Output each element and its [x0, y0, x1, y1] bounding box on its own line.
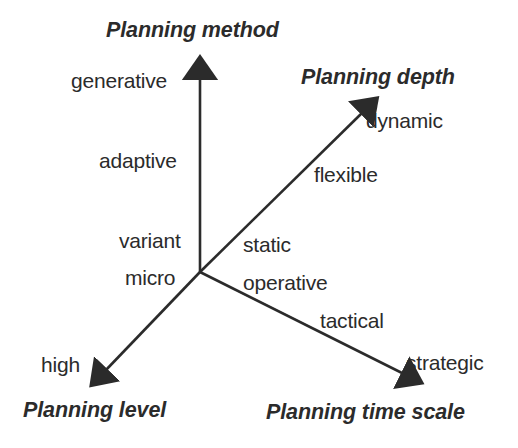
diagram-canvas: Planning method Planning depth Planning …	[0, 0, 518, 448]
scale-label-tactical: tactical	[320, 310, 384, 331]
scale-label-high: high	[41, 354, 80, 375]
scale-label-micro: micro	[125, 267, 175, 288]
scale-label-variant: variant	[119, 230, 181, 251]
scale-label-flexible: flexible	[314, 164, 378, 185]
scale-label-static: static	[243, 234, 291, 255]
scale-label-adaptive: adaptive	[99, 150, 177, 171]
axis-title-planning-level: Planning level	[23, 400, 166, 422]
axis-title-planning-depth: Planning depth	[301, 67, 455, 89]
axis-title-planning-time-scale: Planning time scale	[266, 402, 465, 424]
scale-label-operative: operative	[243, 272, 328, 293]
axis-title-planning-method: Planning method	[106, 20, 279, 42]
scale-label-strategic: strategic	[406, 352, 484, 373]
scale-label-dynamic: dynamic	[366, 110, 443, 131]
scale-label-generative: generative	[71, 70, 167, 91]
